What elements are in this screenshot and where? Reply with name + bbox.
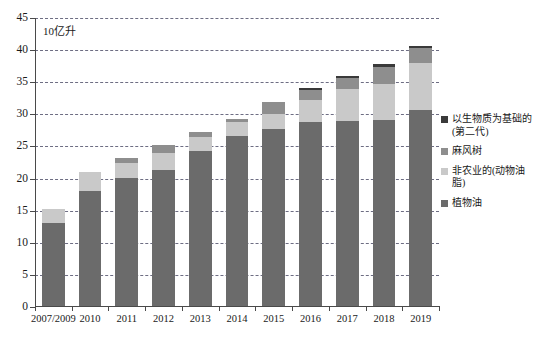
bar-segment xyxy=(373,84,396,121)
gridline xyxy=(35,50,439,51)
bar-segment xyxy=(115,163,138,178)
bar-segment xyxy=(409,48,432,63)
x-axis-tick-label: 2017 xyxy=(337,314,358,325)
bar-segment xyxy=(336,121,359,307)
legend-label: 以生物质为基础的(第二代) xyxy=(452,113,537,138)
bar-segment xyxy=(262,114,285,129)
bar-segment xyxy=(152,145,175,153)
y-axis-tick-label: 20 xyxy=(17,173,29,185)
bar-segment xyxy=(115,178,138,307)
bar-segment xyxy=(299,100,322,122)
bar-segment xyxy=(42,209,65,222)
legend-swatch-icon xyxy=(441,116,448,123)
x-axis-tick-label: 2019 xyxy=(410,314,431,325)
legend-label: 非农业的(动物油脂) xyxy=(452,165,537,190)
bar-segment xyxy=(336,78,359,88)
plot-area: 10亿升 051015202530354045 2007/20092010201… xyxy=(35,18,439,307)
bar-segment xyxy=(299,90,322,100)
chart-legend: 以生物质为基础的(第二代)麻风树非农业的(动物油脂)植物油 xyxy=(441,113,537,216)
bar-segment xyxy=(409,63,432,111)
y-axis-tick-label: 35 xyxy=(17,76,29,88)
y-axis-line xyxy=(35,18,36,307)
x-axis-line xyxy=(35,306,439,307)
x-axis-tick-label: 2018 xyxy=(373,314,394,325)
bar-2007-2009 xyxy=(42,209,65,307)
bar-segment xyxy=(79,191,102,307)
bar-segment xyxy=(42,223,65,307)
legend-item: 植物油 xyxy=(441,197,537,210)
bar-2011 xyxy=(115,158,138,307)
bar-2010 xyxy=(79,172,102,308)
bar-segment xyxy=(152,170,175,307)
x-axis-tick-label: 2015 xyxy=(263,314,284,325)
y-axis-tick-label: 25 xyxy=(17,141,29,153)
bar-segment xyxy=(189,137,212,151)
chart-container: 10亿升 051015202530354045 2007/20092010201… xyxy=(0,0,537,342)
legend-swatch-icon xyxy=(441,148,448,155)
x-axis-tick-label: 2014 xyxy=(227,314,248,325)
legend-item: 非农业的(动物油脂) xyxy=(441,165,537,190)
y-axis-tick-label: 5 xyxy=(22,269,28,281)
bar-2014 xyxy=(226,119,249,307)
y-axis-tick-label: 40 xyxy=(17,44,29,56)
bar-2016 xyxy=(299,88,322,307)
bar-2018 xyxy=(373,64,396,307)
legend-item: 以生物质为基础的(第二代) xyxy=(441,113,537,138)
gridline xyxy=(35,18,439,19)
x-axis-tick-label: 2010 xyxy=(80,314,101,325)
bar-2013 xyxy=(189,132,212,307)
bar-2019 xyxy=(409,46,432,307)
x-axis-tick-label: 2011 xyxy=(117,314,138,325)
bar-segment xyxy=(336,89,359,121)
legend-swatch-icon xyxy=(441,168,448,175)
y-axis-tick-label: 0 xyxy=(22,301,28,313)
bar-segment xyxy=(299,122,322,307)
bar-segment xyxy=(262,102,285,114)
bar-segment xyxy=(226,136,249,307)
x-axis-tick-label: 2013 xyxy=(190,314,211,325)
bar-segment xyxy=(262,129,285,307)
legend-label: 植物油 xyxy=(452,197,482,210)
y-axis-tick-label: 15 xyxy=(17,205,29,217)
y-axis-tick-label: 45 xyxy=(17,12,29,24)
bar-segment xyxy=(409,110,432,307)
bar-segment xyxy=(189,151,212,307)
bar-segment xyxy=(373,67,396,83)
legend-item: 麻风树 xyxy=(441,145,537,158)
bar-2017 xyxy=(336,76,359,307)
bar-2015 xyxy=(262,102,285,307)
bar-segment xyxy=(226,122,249,136)
y-axis-tick-label: 10 xyxy=(17,237,29,249)
bar-segment xyxy=(152,153,175,170)
x-axis-tick xyxy=(439,306,440,311)
legend-label: 麻风树 xyxy=(452,145,482,158)
unit-label: 10亿升 xyxy=(43,26,76,37)
y-axis-tick-label: 30 xyxy=(17,109,29,121)
x-axis-tick-label: 2016 xyxy=(300,314,321,325)
x-axis-tick-label: 2012 xyxy=(153,314,174,325)
x-axis-tick-label: 2007/2009 xyxy=(31,314,76,325)
bar-segment xyxy=(79,172,102,192)
bar-2012 xyxy=(152,145,175,307)
legend-swatch-icon xyxy=(441,200,448,207)
bar-segment xyxy=(373,120,396,307)
